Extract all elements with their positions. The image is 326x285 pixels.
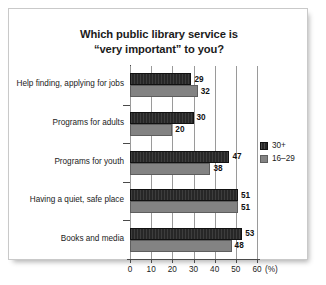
x-axis-tick: [151, 259, 152, 263]
bar-value-label: 38: [210, 164, 222, 173]
gridline: [257, 66, 258, 259]
bar: [130, 189, 238, 201]
bar-value-label: 30: [194, 113, 206, 122]
legend-item[interactable]: 16–29: [260, 153, 304, 166]
bar: [130, 112, 194, 124]
legend-swatch-icon: [260, 142, 268, 150]
bar-value-label: 51: [238, 191, 250, 200]
category-label: Programs for adults: [0, 118, 130, 127]
y-axis-tick: [123, 105, 130, 106]
bar-value-label: 48: [232, 241, 244, 250]
bar: [130, 85, 198, 97]
bar-value-label: 51: [238, 203, 250, 212]
category-label: Books and media: [0, 234, 130, 243]
legend-label: 30+: [272, 141, 286, 150]
chart-title: Which public library service is “very im…: [17, 27, 301, 56]
x-axis-tick: [172, 259, 173, 263]
chart-card: Which public library service is “very im…: [8, 8, 308, 260]
bar: [130, 240, 232, 252]
bar: [130, 201, 238, 213]
y-axis-tick: [123, 182, 130, 183]
category-label: Help finding, applying for jobs: [0, 79, 130, 88]
category-label: Having a quiet, safe place: [0, 195, 130, 204]
y-axis-tick: [123, 143, 130, 144]
bar: [130, 73, 191, 85]
bar-value-label: 53: [242, 229, 254, 238]
x-axis-tick: [236, 259, 237, 263]
plot-area: Help finding, applying for jobs2932Progr…: [130, 66, 257, 259]
y-axis-tick: [123, 220, 130, 221]
x-axis-tick: [194, 259, 195, 263]
x-axis-tick: [257, 259, 258, 263]
legend-item[interactable]: 30+: [260, 140, 304, 153]
legend-swatch-icon: [260, 155, 268, 163]
legend-label: 16–29: [272, 154, 295, 163]
bar: [130, 124, 172, 136]
category-label: Programs for youth: [0, 157, 130, 166]
x-axis-unit-label: (%): [265, 265, 278, 274]
chart-legend: 30+16–29: [260, 140, 304, 166]
x-axis-tick: [215, 259, 216, 263]
bar-value-label: 29: [191, 75, 203, 84]
bar-value-label: 32: [198, 87, 210, 96]
bar: [130, 163, 210, 175]
figure-root: Which public library service is “very im…: [0, 0, 326, 285]
bar-value-label: 20: [172, 125, 184, 134]
bar-value-label: 47: [229, 152, 241, 161]
bar: [130, 151, 229, 163]
x-axis-tick: [130, 259, 131, 263]
bar: [130, 228, 242, 240]
